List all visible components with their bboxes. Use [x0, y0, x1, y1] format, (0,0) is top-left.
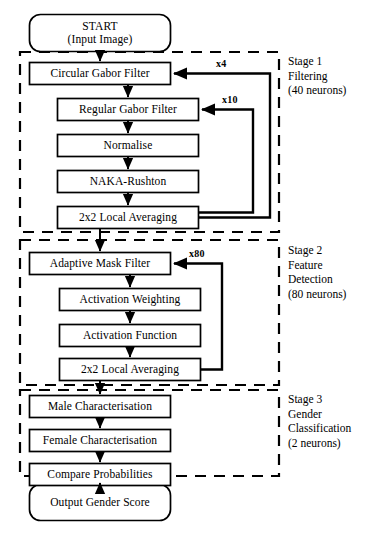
process-box-circular-gabor-filter	[30, 63, 171, 85]
process-box-male-characterisation	[30, 396, 171, 418]
stage-1-annotation-line-2: Filtering	[288, 69, 346, 84]
feedback-loop-x10	[199, 110, 254, 213]
process-box-naka-rushton	[58, 171, 199, 193]
process-box-stage1-local-averaging	[58, 207, 199, 229]
loop-label-x4: x4	[216, 58, 226, 69]
process-box-activation-weighting	[60, 289, 201, 311]
stage-2-annotation-line-1: Stage 2	[288, 243, 346, 258]
stage-3-annotation: Stage 3 Gender Classification (2 neurons…	[288, 392, 351, 451]
process-box-adaptive-mask-filter	[30, 253, 171, 275]
loop-label-x80: x80	[189, 248, 205, 259]
process-box-female-characterisation	[30, 430, 171, 452]
stage-3-annotation-line-4: (2 neurons)	[288, 436, 351, 451]
terminal-output	[30, 485, 171, 521]
feedback-loop-x80	[174, 264, 222, 370]
process-box-compare-probabilities	[30, 464, 171, 486]
stage-2-annotation-line-4: (80 neurons)	[288, 287, 346, 302]
process-box-activation-function	[60, 325, 201, 347]
stage-2-annotation-line-3: Detection	[288, 272, 346, 287]
process-box-normalise	[58, 135, 199, 157]
stage-2-annotation-line-2: Feature	[288, 258, 346, 273]
stage-1-annotation: Stage 1 Filtering (40 neurons)	[288, 54, 346, 98]
loop-label-x10: x10	[222, 94, 238, 105]
flowchart-diagram: START (Input Image) Output Gender Score …	[0, 0, 386, 539]
stage-2-annotation: Stage 2 Feature Detection (80 neurons)	[288, 243, 346, 302]
process-box-stage2-local-averaging	[60, 359, 201, 381]
stage-3-annotation-line-3: Classification	[288, 421, 351, 436]
stage-1-annotation-line-3: (40 neurons)	[288, 83, 346, 98]
terminal-start	[30, 15, 171, 52]
stage-3-annotation-line-1: Stage 3	[288, 392, 351, 407]
process-box-regular-gabor-filter	[58, 99, 199, 121]
stage-3-annotation-line-2: Gender	[288, 407, 351, 422]
stage-1-annotation-line-1: Stage 1	[288, 54, 346, 69]
